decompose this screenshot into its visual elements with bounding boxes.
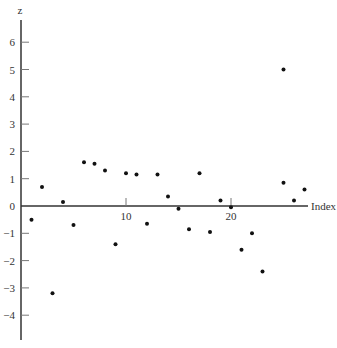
data-point	[208, 230, 212, 234]
data-point	[250, 231, 254, 235]
y-tick-label: 0	[10, 200, 16, 212]
y-tick-label: 4	[10, 91, 16, 103]
ticks: −4−3−2−101234561020	[3, 36, 237, 321]
data-point	[124, 171, 128, 175]
data-point	[177, 207, 181, 211]
axes	[21, 20, 308, 340]
data-point	[240, 248, 244, 252]
y-tick-label: −4	[3, 309, 15, 321]
data-point	[40, 185, 44, 189]
data-point	[93, 162, 97, 166]
x-tick-label: 10	[121, 210, 133, 222]
y-tick-label: −3	[3, 282, 15, 294]
data-point	[303, 188, 307, 192]
data-point	[282, 181, 286, 185]
data-point	[261, 270, 265, 274]
y-tick-label: 3	[10, 118, 16, 130]
y-tick-label: −2	[3, 255, 15, 267]
data-point	[229, 205, 233, 209]
y-tick-label: −1	[3, 227, 15, 239]
data-point	[114, 242, 118, 246]
data-points	[30, 68, 307, 296]
x-tick-label: 20	[226, 210, 238, 222]
data-point	[198, 171, 202, 175]
data-point	[72, 223, 76, 227]
data-point	[156, 173, 160, 177]
data-point	[187, 227, 191, 231]
y-axis-label: z	[18, 4, 23, 16]
y-tick-label: 2	[10, 145, 16, 157]
data-point	[61, 200, 65, 204]
x-axis-label: Index	[311, 200, 337, 212]
data-point	[103, 169, 107, 173]
data-point	[166, 194, 170, 198]
data-point	[282, 68, 286, 72]
data-point	[145, 222, 149, 226]
data-point	[51, 291, 55, 295]
y-tick-label: 1	[10, 173, 16, 185]
y-tick-label: 6	[10, 36, 16, 48]
data-point	[82, 160, 86, 164]
y-tick-label: 5	[10, 64, 16, 76]
data-point	[219, 199, 223, 203]
scatter-chart: −4−3−2−101234561020 z Index	[0, 0, 337, 348]
data-point	[135, 173, 139, 177]
data-point	[292, 199, 296, 203]
data-point	[30, 218, 34, 222]
